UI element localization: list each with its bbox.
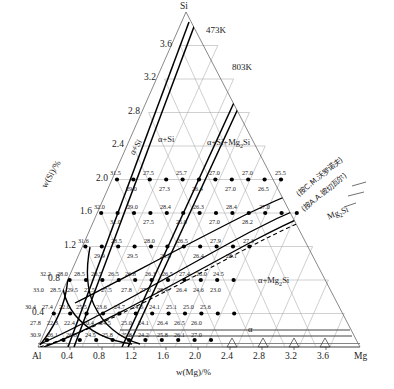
dv: 25.0 xyxy=(176,219,187,225)
dv: 27.0 xyxy=(242,170,253,176)
dv: 32.2 xyxy=(40,271,51,277)
dv: 24.6 xyxy=(193,287,204,293)
y-tick-2.4: 2.4 xyxy=(112,140,124,150)
phase-label-alpha-si-mg2si: α+Si+Mg2Si xyxy=(207,138,250,149)
y-tick-1.6: 1.6 xyxy=(80,207,92,217)
corner-label-mg: Mg xyxy=(354,352,367,362)
dv: 24.5 xyxy=(85,332,96,338)
corner-label-al: Al xyxy=(32,352,42,362)
dv: 25.7 xyxy=(176,170,187,176)
dv: 28.5 xyxy=(111,238,122,244)
apex-label-si: Si xyxy=(180,2,188,12)
phase-label-alpha: α xyxy=(248,325,252,334)
dv: 26.1 xyxy=(47,332,58,338)
dv: 27.9 xyxy=(210,238,221,244)
dv: 25.5 xyxy=(275,170,286,176)
legend-leader-lines xyxy=(344,182,366,207)
dv: 33.0 xyxy=(33,287,44,293)
dv: 27.3 xyxy=(243,238,254,244)
dv: 26.3 xyxy=(145,271,156,277)
dv: 22.3 xyxy=(47,320,58,326)
dv: 27.4 xyxy=(42,304,53,310)
dv: 20.4 xyxy=(83,320,94,326)
dv: 25.8 xyxy=(102,332,113,338)
dv: 31.0 xyxy=(110,219,121,225)
ternary-diagram-figure: Si Al Mg 473K 803K 3.6 3.2 2.8 2.4 2.0 1… xyxy=(0,0,394,389)
dv: 24.6 xyxy=(132,304,143,310)
dv: 31.5 xyxy=(110,170,121,176)
dv: 27.0 xyxy=(209,170,220,176)
dv: 29.0 xyxy=(127,204,138,210)
dv: 25.0 xyxy=(121,320,132,326)
x-tick-2.8: 2.8 xyxy=(253,352,265,362)
bottom-axis-open-ticks xyxy=(227,338,330,347)
dv: 28.0 xyxy=(57,271,68,277)
isotherm-label-803k: 803K xyxy=(232,63,252,72)
dv: 27.8 xyxy=(121,287,132,293)
dv: 28.4 xyxy=(226,204,237,210)
dv: 26.0 xyxy=(196,271,207,277)
dv: 28.1 xyxy=(226,253,237,259)
dv: 32.0 xyxy=(94,204,105,210)
dv: 26.4 xyxy=(192,186,203,192)
dv: 25.8 xyxy=(157,332,168,338)
y-tick-2.0: 2.0 xyxy=(96,174,108,184)
dv: 23.6 xyxy=(96,304,107,310)
dv: 27.5 xyxy=(143,219,154,225)
dv: 26.4 xyxy=(157,320,168,326)
dv: 25.8 xyxy=(121,332,132,338)
dv: 30.4 xyxy=(25,304,36,310)
y-tick-1.2: 1.2 xyxy=(64,241,76,251)
dv: 23.0 xyxy=(210,287,221,293)
dv: 26.5 xyxy=(162,271,173,277)
dv: 24.2 xyxy=(138,332,149,338)
dv: 22.0 xyxy=(59,304,70,310)
dv: 26.8 xyxy=(125,271,136,277)
y-tick-3.6: 3.6 xyxy=(160,40,172,50)
x-axis-title: w(Mg)/% xyxy=(176,368,211,377)
dv: 26.5 xyxy=(108,271,119,277)
dv: 27.8 xyxy=(30,320,41,326)
x-tick-2.0: 2.0 xyxy=(189,352,201,362)
dv: 29.9 xyxy=(94,253,105,259)
dv: 31.6 xyxy=(78,238,89,244)
dv: 28.5 xyxy=(74,271,85,277)
dv: 24.1 xyxy=(149,304,160,310)
dv: 28.0 xyxy=(160,253,171,259)
phase-label-alpha-mg2si: α+Mg2Si xyxy=(258,276,289,287)
dv: 28.0 xyxy=(144,238,155,244)
dv: 22.4 xyxy=(64,320,75,326)
dv: 27.5 xyxy=(101,287,112,293)
dv: 28.4 xyxy=(157,287,168,293)
dv: 25.5 xyxy=(76,304,87,310)
phase-label-alpha-si: α+Si xyxy=(158,135,174,144)
dv: 27.0 xyxy=(259,204,270,210)
isotherm-label-473k: 473K xyxy=(206,26,226,35)
dv: 28.5 xyxy=(91,271,102,277)
dv: 26.0 xyxy=(191,320,202,326)
dv: 29.5 xyxy=(127,253,138,259)
dv: 24.5 xyxy=(213,271,224,277)
y-tick-2.8: 2.8 xyxy=(128,107,140,117)
dv: 29.5 xyxy=(67,287,78,293)
dv: 27.0 xyxy=(191,332,202,338)
dv: 27.0 xyxy=(140,287,151,293)
dv: 24.1 xyxy=(138,320,149,326)
dv: 26.4 xyxy=(193,253,204,259)
dv: 26.5 xyxy=(174,320,185,326)
dv: 27.0 xyxy=(209,219,220,225)
x-tick-3.2: 3.2 xyxy=(285,352,297,362)
dv: 25.6 xyxy=(200,304,211,310)
x-tick-3.6: 3.6 xyxy=(317,352,329,362)
y-tick-3.2: 3.2 xyxy=(144,73,156,83)
dv: 24.5 xyxy=(100,320,111,326)
dv: 24.7 xyxy=(114,304,125,310)
dv: 27.5 xyxy=(143,170,154,176)
dv: 28.5 xyxy=(50,287,61,293)
dv: 25.0 xyxy=(183,304,194,310)
dv: 28.4 xyxy=(160,204,171,210)
bottom-axis-rules xyxy=(38,344,360,348)
dv: 26.8 xyxy=(66,332,77,338)
x-tick-0.4: 0.4 xyxy=(61,352,73,362)
dv: 27.0 xyxy=(225,186,236,192)
